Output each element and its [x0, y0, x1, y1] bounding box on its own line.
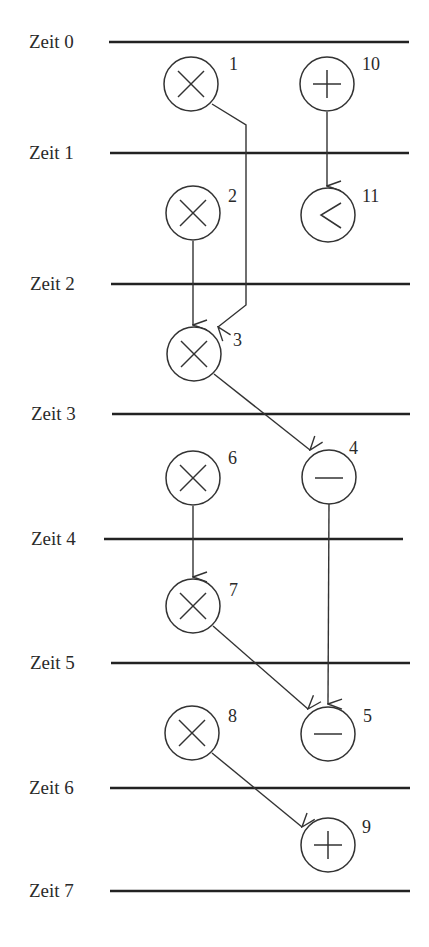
time-label: Zeit 0: [29, 31, 74, 52]
node-number: 3: [233, 330, 242, 350]
edge-7-to-5: [213, 626, 308, 709]
node-circle: [301, 188, 355, 242]
nodes: 1 10 2 11: [164, 54, 380, 872]
node-number: 10: [362, 54, 380, 74]
time-label: Zeit 6: [29, 777, 74, 798]
time-step-7: Zeit 7: [29, 880, 410, 901]
node-number: 4: [349, 438, 358, 458]
scheduling-diagram: Zeit 0 Zeit 1 Zeit 2 Zeit 3 Zeit 4 Zeit …: [0, 0, 429, 947]
time-step-4: Zeit 4: [31, 528, 403, 549]
node-1: 1: [164, 54, 238, 111]
node-6: 6: [166, 448, 237, 505]
node-number: 9: [362, 817, 371, 837]
node-number: 6: [228, 448, 237, 468]
time-step-6: Zeit 6: [29, 777, 410, 798]
node-number: 8: [228, 706, 237, 726]
node-7: 7: [166, 579, 238, 633]
node-10: 10: [300, 54, 380, 111]
edge-3-to-4: [214, 374, 310, 450]
time-label: Zeit 1: [29, 142, 74, 163]
node-8: 8: [165, 706, 237, 760]
node-5: 5: [301, 706, 372, 761]
time-label: Zeit 5: [30, 652, 75, 673]
time-label: Zeit 7: [29, 880, 74, 901]
node-number: 11: [362, 186, 379, 206]
time-label: Zeit 3: [31, 403, 76, 424]
node-number: 5: [363, 706, 372, 726]
edge-4-to-5: [328, 503, 329, 704]
edge-8-to-9: [212, 753, 302, 827]
node-number: 1: [229, 54, 238, 74]
node-4: 4: [302, 438, 358, 504]
node-2: 2: [166, 186, 237, 240]
time-step-2: Zeit 2: [30, 273, 410, 294]
time-label: Zeit 2: [30, 273, 75, 294]
time-step-0: Zeit 0: [29, 31, 409, 52]
node-9: 9: [301, 817, 371, 872]
node-11: 11: [301, 186, 379, 242]
node-number: 2: [228, 186, 237, 206]
node-3: 3: [167, 327, 242, 381]
time-step-1: Zeit 1: [29, 142, 409, 163]
time-step-3: Zeit 3: [31, 403, 410, 424]
time-label: Zeit 4: [31, 528, 76, 549]
node-number: 7: [229, 580, 238, 600]
time-step-5: Zeit 5: [30, 652, 410, 673]
node-circle: [302, 450, 356, 504]
